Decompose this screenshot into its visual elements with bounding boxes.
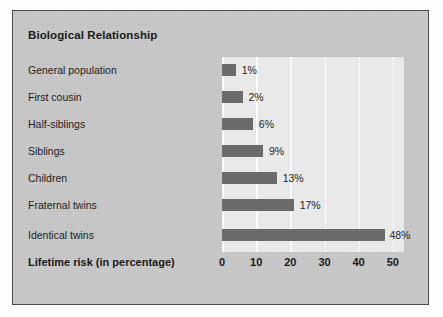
- category-label: Children: [28, 171, 67, 185]
- bar-row: Half-siblings 6%: [0, 117, 443, 131]
- value-label: 17%: [300, 198, 321, 212]
- category-label: Siblings: [28, 144, 65, 158]
- xtick-label-50: 50: [387, 256, 399, 268]
- bar: [222, 118, 253, 130]
- value-label: 2%: [249, 90, 264, 104]
- bar: [222, 91, 243, 103]
- axis-title: Lifetime risk (in percentage): [28, 256, 175, 268]
- category-label: First cousin: [28, 90, 82, 104]
- value-label: 1%: [242, 63, 257, 77]
- chart-title: Biological Relationship: [28, 29, 157, 41]
- xtick-label-40: 40: [352, 256, 364, 268]
- category-label: Identical twins: [28, 228, 94, 242]
- bar-row: Siblings 9%: [0, 144, 443, 158]
- bar: [222, 64, 236, 76]
- chart-figure: Biological Relationship General populati…: [0, 0, 443, 317]
- bar-row: Fraternal twins 17%: [0, 198, 443, 212]
- bar: [222, 229, 385, 241]
- category-label: Half-siblings: [28, 117, 85, 131]
- bar: [222, 172, 277, 184]
- xtick-label-30: 30: [318, 256, 330, 268]
- xtick-label-10: 10: [250, 256, 262, 268]
- value-label: 13%: [283, 171, 304, 185]
- bar-row: Identical twins 48%: [0, 228, 443, 242]
- category-label: Fraternal twins: [28, 198, 97, 212]
- value-label: 6%: [259, 117, 274, 131]
- category-label: General population: [28, 63, 117, 77]
- bar-row: First cousin 2%: [0, 90, 443, 104]
- value-label: 9%: [269, 144, 284, 158]
- bar-row: General population 1%: [0, 63, 443, 77]
- bar: [222, 145, 263, 157]
- value-label: 48%: [389, 228, 410, 242]
- xtick-label-0: 0: [219, 256, 225, 268]
- bar-row: Children 13%: [0, 171, 443, 185]
- bar: [222, 199, 294, 211]
- xtick-label-20: 20: [284, 256, 296, 268]
